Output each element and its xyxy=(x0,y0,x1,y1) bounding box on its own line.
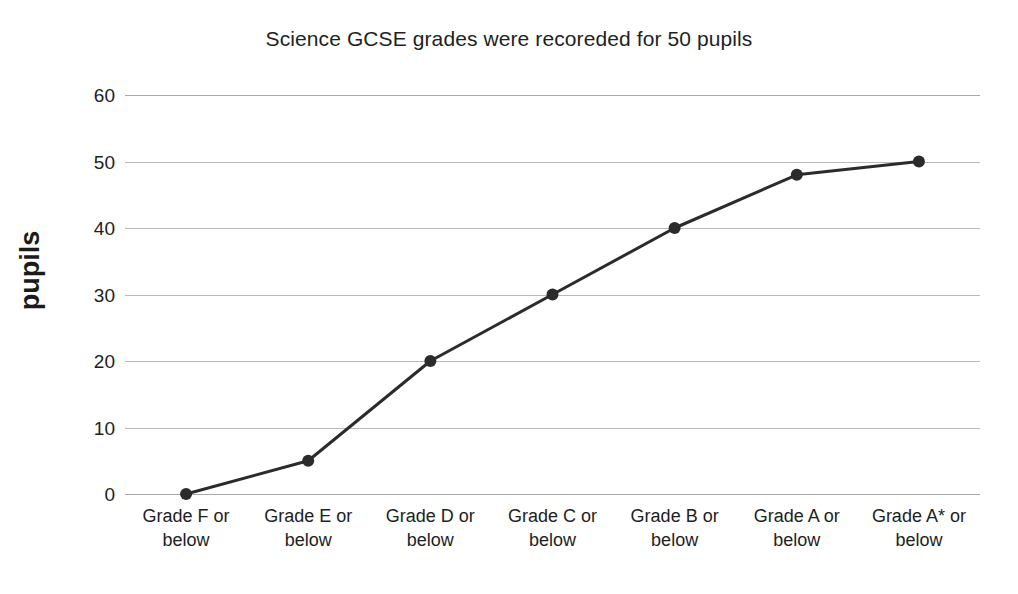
y-tick-label: 20 xyxy=(45,352,115,371)
series-polyline xyxy=(186,162,919,495)
x-tick-label-line: below xyxy=(858,529,980,553)
x-tick-label-line: Grade B or xyxy=(614,505,736,529)
x-tick-label-line: below xyxy=(491,529,613,553)
gridline xyxy=(125,494,980,495)
y-axis-tick-labels: 0102030405060 xyxy=(35,95,115,494)
y-tick-label: 30 xyxy=(45,286,115,305)
y-tick-label: 50 xyxy=(45,153,115,172)
x-tick-label-line: below xyxy=(736,529,858,553)
y-tick-label: 0 xyxy=(45,485,115,504)
data-point xyxy=(791,169,803,181)
plot-area xyxy=(125,95,980,494)
data-point xyxy=(913,156,925,168)
data-point xyxy=(180,488,192,500)
x-tick-label-line: Grade C or xyxy=(491,505,613,529)
data-point xyxy=(669,222,681,234)
chart-title: Science GCSE grades were recoreded for 5… xyxy=(0,27,1018,51)
x-tick-label: Grade B orbelow xyxy=(614,505,736,553)
x-tick-label: Grade A* orbelow xyxy=(858,505,980,553)
x-tick-label: Grade F orbelow xyxy=(125,505,247,553)
data-point xyxy=(302,455,314,467)
x-tick-label-line: below xyxy=(125,529,247,553)
x-tick-label-line: Grade F or xyxy=(125,505,247,529)
data-point xyxy=(547,289,559,301)
x-tick-label: Grade E orbelow xyxy=(247,505,369,553)
x-tick-label-line: Grade A or xyxy=(736,505,858,529)
series-markers xyxy=(180,156,925,501)
y-tick-label: 40 xyxy=(45,219,115,238)
x-tick-label: Grade C orbelow xyxy=(491,505,613,553)
cumulative-frequency-chart: Science GCSE grades were recoreded for 5… xyxy=(0,0,1018,594)
x-tick-label-line: Grade A* or xyxy=(858,505,980,529)
x-tick-label-line: Grade D or xyxy=(369,505,491,529)
x-tick-label-line: below xyxy=(247,529,369,553)
x-tick-label: Grade A orbelow xyxy=(736,505,858,553)
y-tick-label: 60 xyxy=(45,86,115,105)
x-axis-tick-labels: Grade F orbelowGrade E orbelowGrade D or… xyxy=(125,505,980,565)
x-tick-label-line: below xyxy=(369,529,491,553)
x-tick-label-line: below xyxy=(614,529,736,553)
y-tick-label: 10 xyxy=(45,419,115,438)
x-tick-label: Grade D orbelow xyxy=(369,505,491,553)
data-point xyxy=(424,355,436,367)
line-series xyxy=(125,95,980,494)
x-tick-label-line: Grade E or xyxy=(247,505,369,529)
